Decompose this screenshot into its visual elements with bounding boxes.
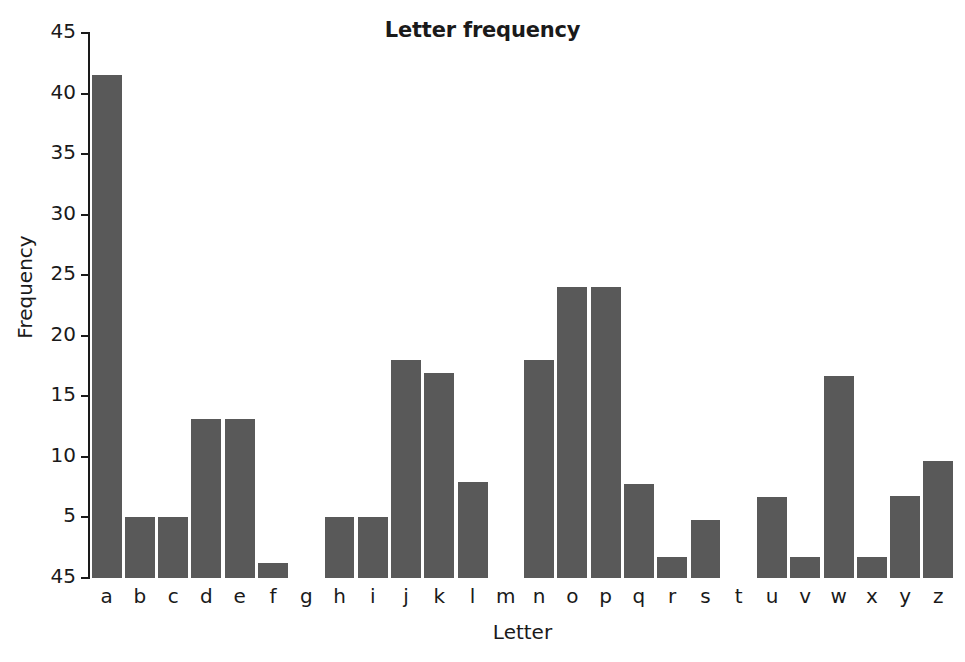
bar-h [325,517,355,578]
bar-p [591,287,621,578]
plot-area [90,33,955,578]
x-tick-label-v: v [789,584,822,608]
bar-k [424,373,454,578]
bar-j [391,360,421,578]
y-tick-label: 20 [51,322,76,346]
bar-b [125,517,155,578]
y-tick-label: 30 [51,201,76,225]
y-tick-label: 45 [51,564,76,588]
x-axis-label: Letter [90,620,955,644]
x-tick-label-u: u [755,584,788,608]
x-tick-label-p: p [589,584,622,608]
bar-o [557,287,587,578]
y-tick-label: 35 [51,140,76,164]
letter-frequency-chart: Letter frequency Frequency 4540353025201… [0,0,965,662]
x-tick-label-f: f [256,584,289,608]
y-tick-mark [81,153,90,155]
x-tick-label-s: s [689,584,722,608]
bar-z [923,461,953,578]
x-tick-label-r: r [656,584,689,608]
bar-n [524,360,554,578]
x-tick-label-g: g [290,584,323,608]
x-tick-label-y: y [888,584,921,608]
y-tick-label: 45 [51,19,76,43]
bar-r [657,557,687,578]
bar-v [790,557,820,578]
y-tick-mark [81,335,90,337]
y-tick-label: 40 [51,80,76,104]
x-tick-label-m: m [489,584,522,608]
x-tick-label-z: z [922,584,955,608]
y-tick-label: 5 [63,503,76,527]
x-tick-label-t: t [722,584,755,608]
y-tick-mark [81,93,90,95]
bar-l [458,482,488,578]
x-tick-label-o: o [556,584,589,608]
bar-w [824,376,854,578]
x-tick-label-l: l [456,584,489,608]
y-axis-ticks: 4540353025201510545 [0,0,90,662]
y-tick-mark [81,395,90,397]
bar-u [757,497,787,578]
y-tick-label: 25 [51,261,76,285]
bar-f [258,563,288,578]
bar-s [691,520,721,578]
y-tick-mark [81,516,90,518]
y-tick-mark [81,214,90,216]
x-tick-label-i: i [356,584,389,608]
y-tick-mark [81,274,90,276]
bar-e [225,419,255,578]
bar-q [624,484,654,578]
y-tick-label: 10 [51,443,76,467]
bar-a [92,75,122,578]
y-tick-mark [81,577,90,579]
y-tick-mark [81,32,90,34]
x-tick-label-b: b [123,584,156,608]
x-tick-label-w: w [822,584,855,608]
x-tick-label-x: x [855,584,888,608]
bar-y [890,496,920,578]
x-tick-label-q: q [622,584,655,608]
y-tick-label: 15 [51,382,76,406]
x-tick-label-c: c [157,584,190,608]
bar-d [191,419,221,578]
x-tick-label-n: n [523,584,556,608]
x-tick-label-e: e [223,584,256,608]
x-tick-label-a: a [90,584,123,608]
x-tick-label-k: k [423,584,456,608]
y-tick-mark [81,456,90,458]
bar-i [358,517,388,578]
bar-c [158,517,188,578]
bar-x [857,557,887,578]
x-tick-label-h: h [323,584,356,608]
x-tick-label-j: j [389,584,422,608]
x-tick-label-d: d [190,584,223,608]
